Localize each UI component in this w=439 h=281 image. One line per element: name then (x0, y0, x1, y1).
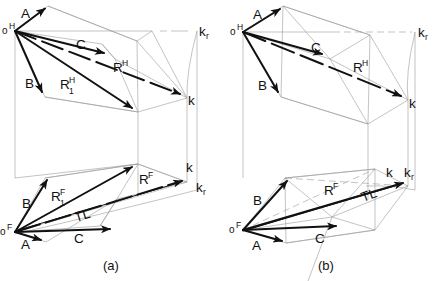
svg-text:H: H (122, 58, 128, 68)
label-B-f-b: B (253, 193, 262, 208)
label-origin-f-a: o F (0, 222, 12, 237)
svg-text:r: r (206, 31, 209, 41)
vector-RF-f-b (243, 183, 403, 230)
svg-text:r: r (203, 187, 206, 197)
rotation-arc-h-a (187, 31, 197, 98)
label-origin-h-b: o H (230, 22, 243, 37)
svg-text:r: r (411, 172, 414, 182)
label-RF-f-a: R F (139, 170, 153, 187)
drawing-canvas: A B C R H R H 1 o H k k r B A C (0, 0, 439, 281)
label-C-h-b: C (311, 40, 321, 55)
label-kr-h-b: k r (418, 25, 428, 42)
svg-text:r: r (425, 32, 428, 42)
panel-a: A B C R H R H 1 o H k k r B A C (0, 6, 209, 273)
svg-text:1: 1 (69, 86, 74, 96)
svg-text:o: o (2, 25, 8, 36)
label-A-h-b: A (253, 7, 262, 22)
label-kr-h-a: k r (199, 24, 209, 41)
svg-text:F: F (7, 222, 12, 232)
label-k-f-a: k (186, 160, 193, 175)
svg-text:o: o (229, 224, 235, 235)
label-origin-h-a: o H (2, 21, 15, 36)
vector-A-f-b (243, 230, 282, 241)
label-R1H-h-a: R H 1 (60, 75, 75, 96)
vectors-h-a (15, 9, 180, 109)
svg-text:o: o (230, 26, 236, 37)
svg-text:F: F (148, 170, 153, 180)
label-kr-f-b: k r (404, 165, 414, 182)
svg-text:H: H (362, 58, 368, 68)
label-A-h-a: A (21, 6, 30, 21)
label-k-h-a: k (188, 93, 195, 108)
label-A-f-a: A (21, 237, 30, 252)
label-B-f-a: B (22, 196, 31, 211)
rotation-arc-h-b (407, 32, 415, 100)
caption-b: (b) (318, 258, 334, 273)
svg-text:H: H (69, 75, 75, 85)
label-A-f-b: A (252, 238, 261, 253)
label-origin-f-b: o F (229, 220, 241, 235)
svg-text:H: H (9, 21, 15, 31)
label-RF-f-b: R F (324, 181, 338, 198)
rotation-arc-f-a (15, 190, 197, 234)
label-B-h-b: B (258, 78, 267, 93)
label-RH-h-b: R H (353, 58, 368, 75)
technical-drawing-figure: A B C R H R H 1 o H k k r B A C (0, 0, 439, 281)
ref-line-f-a (15, 164, 138, 178)
label-R1F-f-a: R F 1 (51, 187, 65, 208)
svg-text:F: F (333, 181, 338, 191)
label-C-f-a: C (74, 231, 84, 246)
svg-text:o: o (0, 226, 6, 237)
svg-text:1: 1 (60, 198, 65, 208)
labels-b: A B C R H o H k k r B A C R F TL (229, 7, 428, 253)
label-TL-f-b: TL (359, 185, 379, 205)
svg-text:k: k (196, 180, 203, 195)
vector-C-h-a (15, 31, 104, 53)
panel-b: A B C R H o H k k r B A C R F TL (229, 6, 428, 281)
label-k-f-b: k (386, 165, 393, 180)
vector-TL-f-a (15, 183, 178, 231)
label-kr-f-a: k r (196, 180, 206, 197)
vectors-f-a (15, 167, 182, 240)
label-k-h-b: k (409, 96, 416, 111)
svg-text:k: k (199, 24, 206, 39)
vector-R1F-f-a (15, 167, 132, 232)
label-C-f-b: C (315, 231, 325, 246)
svg-text:k: k (404, 165, 411, 180)
svg-text:F: F (60, 187, 65, 197)
label-C-h-a: C (76, 37, 86, 52)
svg-text:F: F (236, 220, 241, 230)
svg-text:k: k (418, 25, 425, 40)
label-B-h-a: B (25, 76, 34, 91)
svg-text:H: H (237, 22, 243, 32)
caption-a: (a) (103, 258, 119, 273)
